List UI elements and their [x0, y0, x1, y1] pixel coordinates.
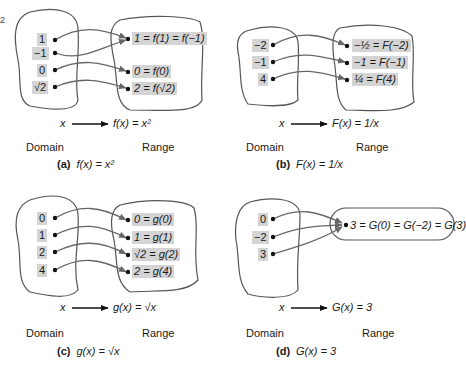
range-value: 0 = f(0): [132, 65, 171, 78]
caption-letter: (b): [276, 158, 290, 170]
mapping-output: F(x) = 1/x: [332, 117, 379, 130]
caption-letter: (d): [276, 345, 290, 357]
caption-b: (b)F(x) = 1/x: [276, 158, 343, 170]
range-value: 1 = g(1): [132, 231, 174, 244]
mapping-output: f(x) = x²: [113, 117, 151, 130]
domain-value: −2: [252, 231, 269, 244]
caption-formula: f(x) = x²: [76, 158, 114, 170]
range-label: Range: [142, 141, 174, 153]
domain-value: 3: [258, 248, 268, 261]
domain-value: −1: [32, 47, 49, 60]
caption-letter: (a): [57, 158, 70, 170]
mapping-input: x: [279, 117, 285, 130]
domain-value: −2: [252, 39, 269, 52]
mapping-input: x: [279, 301, 285, 314]
range-value: 3 = G(0) = G(−2) = G(3): [350, 219, 466, 232]
domain-label: Domain: [246, 327, 284, 339]
domain-value: 1: [37, 33, 47, 46]
domain-label: Domain: [26, 141, 64, 153]
domain-value: √2: [32, 81, 48, 94]
range-value: ¼ = F(4): [352, 73, 398, 86]
range-label: Range: [362, 327, 394, 339]
caption-a: (a)f(x) = x²: [57, 158, 114, 170]
domain-value: −1: [252, 56, 269, 69]
caption-formula: F(x) = 1/x: [296, 158, 343, 170]
range-value: −1 = F(−1): [352, 56, 408, 69]
caption-c: (c)g(x) = √x: [57, 345, 119, 357]
domain-value: 2: [37, 246, 47, 259]
domain-label: Domain: [246, 141, 284, 153]
mapping-output: G(x) = 3: [332, 301, 372, 314]
domain-value: 0: [37, 212, 47, 225]
domain-value: 1: [37, 229, 47, 242]
range-value: 1 = f(1) = f(−1): [132, 32, 207, 45]
range-blob-a: [111, 16, 203, 110]
range-label: Range: [142, 327, 174, 339]
caption-formula: g(x) = √x: [76, 345, 119, 357]
domain-label: Domain: [26, 327, 64, 339]
range-value: 2 = f(√2): [132, 82, 177, 95]
mapping-output: g(x) = √x: [113, 301, 156, 314]
mapping-input: x: [60, 117, 66, 130]
domain-value: 0: [258, 213, 268, 226]
range-value: 0 = g(0): [132, 213, 174, 226]
domain-value: 0: [37, 64, 47, 77]
caption-letter: (c): [57, 345, 70, 357]
range-value: −½ = F(−2): [352, 39, 411, 52]
caption-formula: G(x) = 3: [296, 345, 336, 357]
range-value: 2 = g(4): [132, 265, 174, 278]
range-label: Range: [356, 141, 388, 153]
range-value: √2 = g(2): [132, 248, 180, 261]
mapping-input: x: [60, 301, 66, 314]
domain-value: 4: [258, 73, 268, 86]
domain-value: 4: [37, 264, 47, 277]
caption-d: (d)G(x) = 3: [276, 345, 336, 357]
